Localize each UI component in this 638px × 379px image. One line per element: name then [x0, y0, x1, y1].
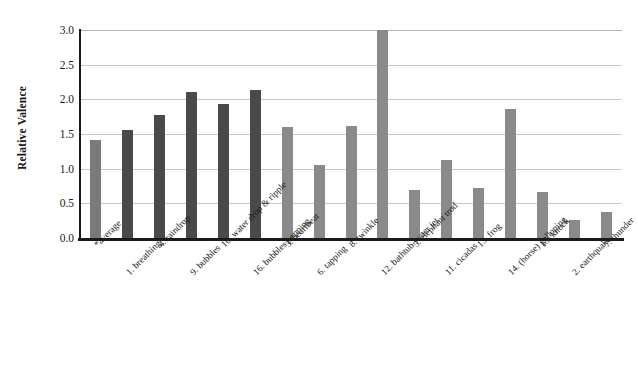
bar — [154, 115, 165, 238]
plot-area — [80, 30, 622, 238]
bar — [314, 165, 325, 238]
x-tick-label: 6. tapping — [315, 243, 349, 277]
y-tick-label: 1.0 — [60, 163, 74, 175]
bar — [505, 109, 516, 238]
bar-series — [80, 30, 622, 238]
x-tick-label: 1. breathing — [124, 238, 163, 277]
bar — [218, 104, 229, 239]
bar — [473, 188, 484, 238]
bar — [346, 126, 357, 238]
bar — [122, 130, 133, 238]
y-tick-label: 2.5 — [60, 59, 74, 71]
y-tick-label: 3.0 — [60, 24, 74, 36]
bar — [441, 160, 452, 238]
bar — [377, 30, 388, 238]
y-tick-label: 0.0 — [60, 232, 74, 244]
x-axis-tick-labels: *average1. breathing4. raindrop9. bubble… — [80, 240, 638, 379]
y-tick-label: 2.0 — [60, 93, 74, 105]
bar — [90, 140, 101, 238]
y-axis-tick-labels: 3.02.52.01.51.00.50.0 — [44, 0, 74, 379]
y-axis-title: Relative Valence — [16, 48, 28, 208]
y-tick-label: 0.5 — [60, 197, 74, 209]
x-tick-label: 9. bubbles — [188, 243, 222, 277]
bar-chart: Relative Valence 3.02.52.01.51.00.50.0 *… — [0, 0, 638, 379]
y-tick-label: 1.5 — [60, 128, 74, 140]
x-tick-label: 11. cicadas — [443, 241, 479, 277]
